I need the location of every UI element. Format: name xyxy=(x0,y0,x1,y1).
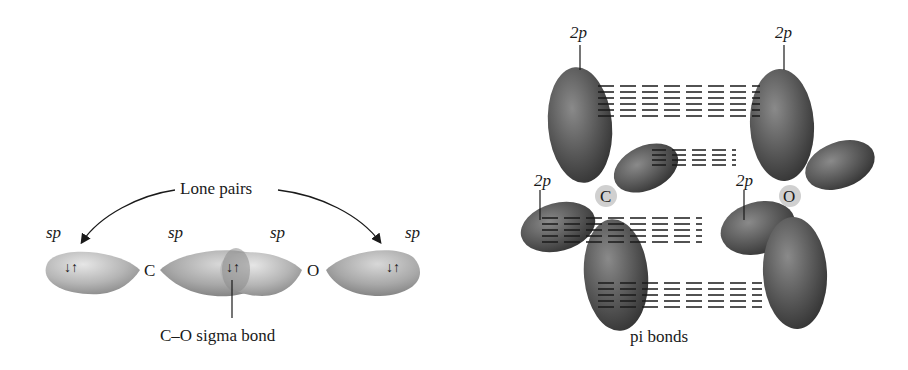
sigma-bond-diagram: Lone pairs sp sp sp sp C O ↓↑ ↓↑ ↓↑ C–O … xyxy=(0,0,470,370)
sigma-bond-label: C–O sigma bond xyxy=(160,327,275,344)
sp-label-1: sp xyxy=(46,224,61,241)
sp-label-3: sp xyxy=(270,224,285,241)
oxygen-p-orbitals xyxy=(715,67,882,330)
carbon-atom-label: C xyxy=(600,188,611,205)
sp-label-2: sp xyxy=(168,224,183,241)
pi-bond-diagram: 2p 2p 2p 2p C O pi bonds xyxy=(470,0,908,370)
2p-label-oxygen-side: 2p xyxy=(736,172,753,189)
electron-pair-icon: ↓↑ xyxy=(64,261,78,275)
pi-bond-dashes-top xyxy=(598,86,760,116)
oxygen-lone-pair-lobe xyxy=(326,250,420,296)
2p-label-oxygen-top: 2p xyxy=(775,24,792,41)
carbon-atom-label: C xyxy=(144,262,155,279)
oxygen-atom-label: O xyxy=(307,262,319,279)
2p-label-carbon-top: 2p xyxy=(570,24,587,41)
lone-pair-arrow-right xyxy=(278,190,380,242)
electron-pair-icon: ↓↑ xyxy=(386,261,400,275)
sp-label-4: sp xyxy=(405,224,420,241)
2p-label-carbon-side: 2p xyxy=(534,172,551,189)
oxygen-atom-label: O xyxy=(783,188,795,205)
lone-pair-arrow-left xyxy=(82,190,175,242)
pi-bonds-label: pi bonds xyxy=(630,328,688,345)
carbon-lone-pair-lobe xyxy=(46,252,140,294)
lone-pairs-label: Lone pairs xyxy=(180,180,252,197)
electron-pair-icon: ↓↑ xyxy=(226,261,240,275)
